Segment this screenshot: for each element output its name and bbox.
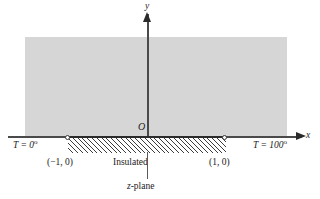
insulated-leader-line: [147, 152, 148, 179]
label-point-minus-one: (−1, 0): [47, 158, 73, 168]
insulated-hatching: [68, 138, 226, 153]
origin-label: O: [138, 122, 145, 132]
label-point-plus-one: (1, 0): [209, 158, 230, 168]
node-plus-one: [222, 135, 227, 140]
left-bc-text: T = 0: [13, 140, 34, 150]
shaded-region: [25, 37, 287, 137]
right-bc-text: T = 100: [253, 140, 284, 150]
left-bc-degree: o: [34, 138, 38, 146]
z-plane-rest: -plane: [131, 181, 155, 191]
figure-canvas: x y O T = 0o T = 100o (−1, 0) (1, 0) Ins…: [0, 0, 320, 199]
insulated-label: Insulated: [113, 158, 148, 168]
node-minus-one: [65, 135, 70, 140]
right-bc-degree: o: [284, 138, 288, 146]
z-plane-caption: z-plane: [127, 182, 154, 192]
y-axis-arrow-icon: [143, 12, 151, 22]
x-axis-label: x: [306, 131, 310, 141]
x-axis-arrow-icon: [296, 132, 306, 140]
right-boundary-condition: T = 100o: [253, 141, 287, 151]
y-axis-line: [147, 14, 149, 137]
y-axis-label: y: [145, 2, 149, 12]
left-boundary-condition: T = 0o: [13, 141, 38, 151]
